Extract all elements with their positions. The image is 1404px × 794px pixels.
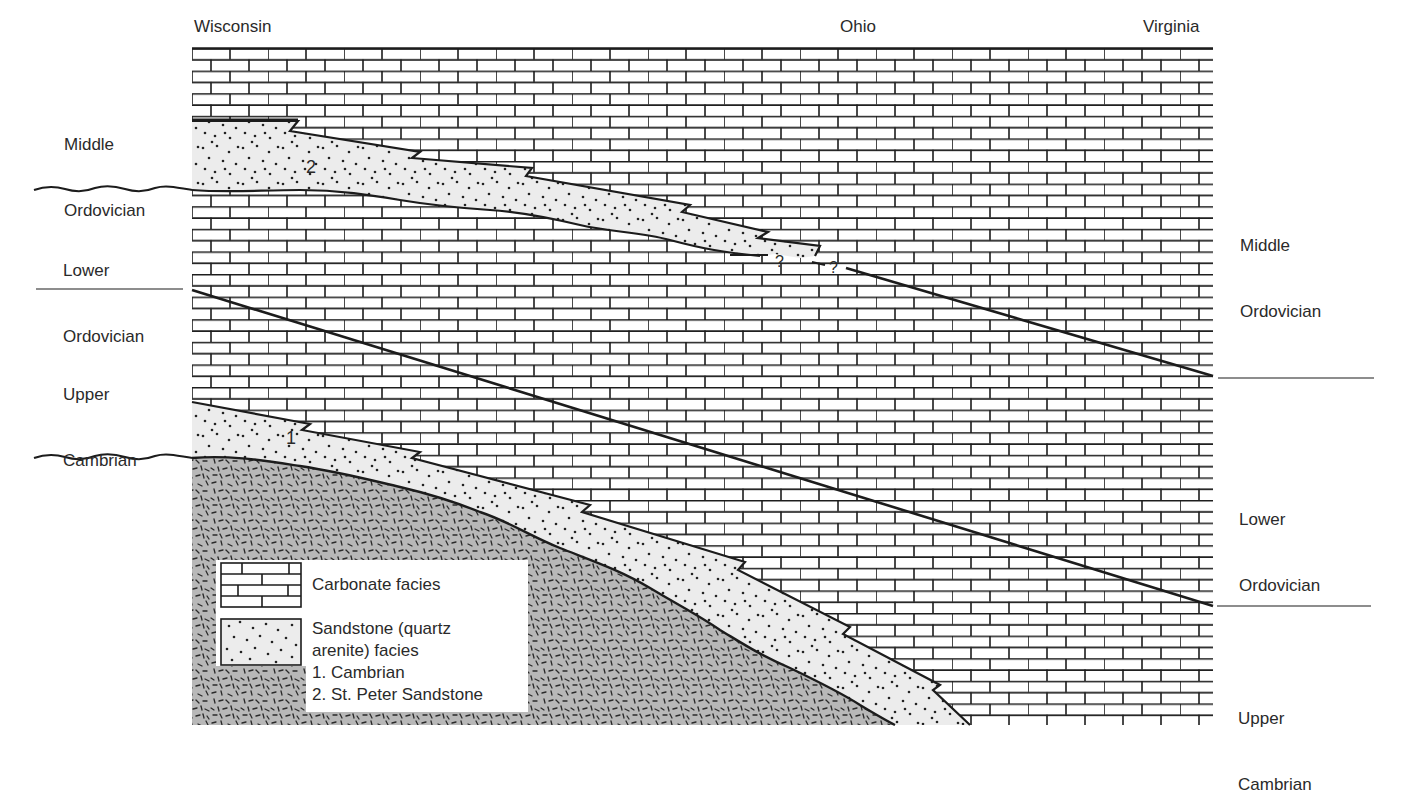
legend-carbonate-swatch xyxy=(220,562,302,608)
right-period-middle-ordovician: Middle Ordovician xyxy=(1240,191,1321,345)
left-period-middle-ordovician-line1: Middle xyxy=(64,134,145,156)
right-period-lower-ordovician-line1: Lower xyxy=(1239,509,1320,531)
legend-item-st-peter: 2. St. Peter Sandstone xyxy=(312,684,483,706)
right-period-lower-ordovician-line2: Ordovician xyxy=(1239,575,1320,597)
right-period-upper-cambrian-line2: Cambrian xyxy=(1238,774,1312,794)
left-period-upper-cambrian: Upper Cambrian xyxy=(63,340,137,494)
legend-sandstone-swatch xyxy=(220,618,302,666)
location-virginia: Virginia xyxy=(1143,16,1199,38)
legend-carbonate-label: Carbonate facies xyxy=(312,574,441,596)
right-period-upper-cambrian: Upper Cambrian xyxy=(1238,664,1312,794)
legend-sandstone-label-line2: arenite) facies xyxy=(312,640,419,662)
location-wisconsin: Wisconsin xyxy=(194,16,271,38)
left-period-upper-cambrian-line2: Cambrian xyxy=(63,450,137,472)
legend-sandstone-label-line1: Sandstone (quartz xyxy=(312,618,451,640)
legend: Carbonate facies Sandstone (quartz areni… xyxy=(216,560,528,712)
left-period-lower-ordovician-line1: Lower xyxy=(63,260,144,282)
right-period-lower-ordovician: Lower Ordovician xyxy=(1239,465,1320,619)
right-period-upper-cambrian-line1: Upper xyxy=(1238,708,1312,730)
uncertain-marker-2: ? xyxy=(829,257,838,279)
right-period-middle-ordovician-line2: Ordovician xyxy=(1240,301,1321,323)
legend-item-cambrian: 1. Cambrian xyxy=(312,662,405,684)
uncertain-marker-1: ? xyxy=(775,251,784,273)
unit-label-cambrian: 1 xyxy=(286,427,296,449)
unit-label-st-peter: 2 xyxy=(306,156,316,178)
right-period-middle-ordovician-line1: Middle xyxy=(1240,235,1321,257)
left-period-upper-cambrian-line1: Upper xyxy=(63,384,137,406)
location-ohio: Ohio xyxy=(840,16,876,38)
